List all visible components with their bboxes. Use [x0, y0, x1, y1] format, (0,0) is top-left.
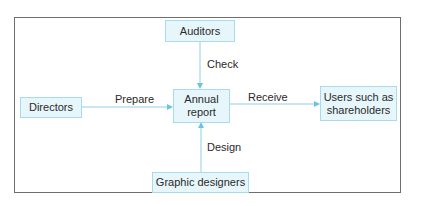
edge-label-receive: Receive [248, 91, 288, 103]
node-auditors: Auditors [165, 20, 235, 42]
node-graphic-designers: Graphic designers [152, 172, 249, 193]
node-directors: Directors [20, 97, 82, 118]
edge-label-design: Design [207, 141, 241, 153]
node-users-line1: Users such as [324, 91, 394, 104]
node-auditors-label: Auditors [180, 25, 220, 38]
edge-label-check: Check [207, 58, 238, 70]
node-users-line2: shareholders [327, 104, 391, 117]
node-directors-label: Directors [29, 101, 73, 114]
node-annual-report-line1: Annual [184, 93, 218, 106]
node-graphic-designers-label: Graphic designers [156, 176, 245, 189]
node-annual-report-line2: report [187, 106, 216, 119]
node-users-shareholders: Users such as shareholders [320, 86, 397, 121]
edge-label-prepare: Prepare [115, 93, 154, 105]
node-annual-report: Annual report [173, 89, 230, 123]
